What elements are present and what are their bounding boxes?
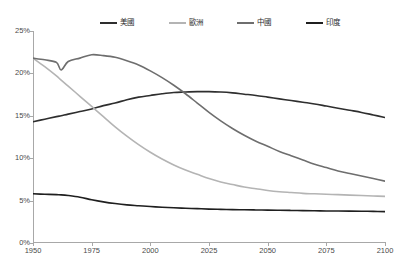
x-tick-mark-3 — [209, 242, 210, 246]
series-line-3 — [33, 194, 385, 212]
y-tick-label-2: 15% — [15, 112, 30, 120]
x-tick-mark-2 — [150, 242, 151, 246]
legend-swatch-icon-1 — [169, 22, 186, 24]
x-tick-label-2: 2000 — [142, 247, 159, 255]
legend-swatch-icon-0 — [100, 22, 117, 24]
legend-label-2: 中國 — [257, 19, 271, 27]
legend-label-1: 歐洲 — [189, 19, 203, 27]
x-tick-label-3: 2025 — [201, 247, 218, 255]
series-line-2 — [33, 55, 385, 181]
plot-area — [33, 31, 385, 243]
legend-label-3: 印度 — [326, 19, 340, 27]
y-tick-label-0: 25% — [15, 27, 30, 35]
y-tick-label-1: 20% — [15, 69, 30, 77]
legend-item-1: 歐洲 — [169, 19, 203, 27]
legend-item-2: 中國 — [237, 19, 271, 27]
x-tick-mark-0 — [33, 242, 34, 246]
line-chart: 美國 歐洲 中國 印度 25%20%15%10%5%0% 19501975200… — [0, 0, 398, 275]
legend-item-0: 美國 — [100, 19, 134, 27]
chart-legend: 美國 歐洲 中國 印度 — [100, 16, 340, 30]
y-tick-mark-2 — [29, 116, 33, 117]
x-tick-label-1: 1975 — [83, 247, 100, 255]
x-tick-label-0: 1950 — [25, 247, 42, 255]
legend-label-0: 美國 — [120, 19, 134, 27]
x-tick-mark-1 — [92, 242, 93, 246]
series-lines — [33, 31, 385, 243]
y-axis-tick-labels: 25%20%15%10%5%0% — [0, 0, 30, 275]
y-tick-mark-1 — [29, 73, 33, 74]
x-tick-label-6: 2100 — [377, 247, 394, 255]
y-tick-mark-3 — [29, 158, 33, 159]
series-line-1 — [33, 58, 385, 196]
y-tick-mark-0 — [29, 31, 33, 32]
x-tick-label-5: 2075 — [318, 247, 335, 255]
y-tick-label-3: 10% — [15, 154, 30, 162]
series-line-0 — [33, 92, 385, 122]
x-tick-mark-5 — [326, 242, 327, 246]
legend-item-3: 印度 — [306, 19, 340, 27]
y-tick-mark-4 — [29, 201, 33, 202]
x-tick-label-4: 2050 — [259, 247, 276, 255]
legend-swatch-icon-2 — [237, 22, 254, 24]
legend-swatch-icon-3 — [306, 22, 323, 24]
x-tick-mark-6 — [385, 242, 386, 246]
x-tick-mark-4 — [268, 242, 269, 246]
x-axis-tick-labels: 1950197520002025205020752100 — [0, 247, 398, 259]
